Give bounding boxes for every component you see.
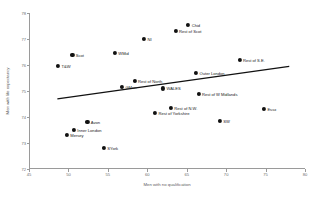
- y-tick-label: 73: [21, 141, 26, 146]
- data-point-label: Chid: [192, 22, 200, 27]
- data-point-label: SW: [223, 118, 230, 123]
- data-point-label: WALES: [166, 86, 180, 91]
- x-tick-mark: [187, 169, 188, 172]
- x-tick-mark: [305, 169, 306, 172]
- data-point-label: Rest of S.E.: [243, 57, 265, 62]
- x-tick-label: 55: [106, 172, 111, 177]
- data-point-label: SYork: [107, 146, 118, 151]
- x-tick-mark: [266, 169, 267, 172]
- x-tick-label: 70: [224, 172, 229, 177]
- data-point-label: T&W: [62, 64, 71, 69]
- data-point-label: Avon: [91, 120, 100, 125]
- y-tick-label: 77: [21, 37, 26, 42]
- data-point-label: Essx: [267, 107, 276, 112]
- data-point-label: NI: [148, 37, 152, 42]
- y-tick-label: 75: [21, 89, 26, 94]
- data-point-label: Rest of W Midlands: [202, 91, 238, 96]
- data-point-label: WMid: [118, 51, 128, 56]
- scatter-chart-figure: 72737475767778 4550556065707580 ChidRest…: [0, 0, 333, 198]
- y-tick-label: 78: [21, 11, 26, 16]
- data-point-label: Rest of Scot: [179, 29, 201, 34]
- data-point-label: Mersey: [70, 133, 83, 138]
- data-point-label: Rest of Yorkshire: [159, 111, 190, 116]
- x-tick-mark: [147, 169, 148, 172]
- y-tick-label: 74: [21, 115, 26, 120]
- x-tick-label: 80: [303, 172, 308, 177]
- x-tick-mark: [29, 169, 30, 172]
- y-tick-label: 76: [21, 63, 26, 68]
- data-point-label: Rest of North: [138, 78, 162, 83]
- trend-line: [29, 13, 305, 169]
- plot-area: 72737475767778 4550556065707580 ChidRest…: [29, 13, 305, 169]
- x-tick-label: 75: [263, 172, 268, 177]
- data-point-label: GMan: [125, 85, 136, 90]
- x-tick-label: 45: [27, 172, 32, 177]
- x-tick-label: 60: [145, 172, 150, 177]
- y-axis-label: Men with life expectancy: [5, 68, 10, 115]
- x-tick-mark: [108, 169, 109, 172]
- x-tick-mark: [226, 169, 227, 172]
- x-tick-label: 65: [184, 172, 189, 177]
- x-tick-label: 50: [66, 172, 71, 177]
- x-tick-mark: [68, 169, 69, 172]
- data-point-label: Scot: [76, 52, 84, 57]
- x-axis-label: Men with no qualification: [29, 182, 305, 187]
- data-point-label: Outer London: [200, 70, 225, 75]
- y-tick-label: 72: [21, 167, 26, 172]
